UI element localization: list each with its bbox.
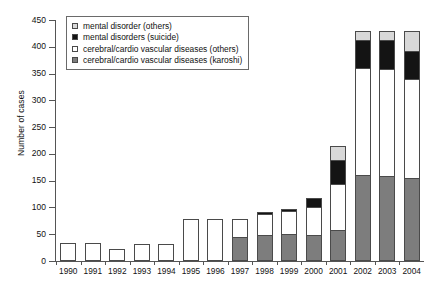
bar-segment [232, 237, 248, 261]
y-tick-mark [49, 127, 55, 128]
legend-item: mental disorders (suicide) [72, 32, 242, 44]
x-tick-mark [301, 261, 302, 265]
bar-segment [404, 178, 420, 261]
bar-1994 [158, 244, 174, 261]
bar-segment [379, 69, 395, 176]
y-tick-mark [49, 47, 55, 48]
x-tick-mark [203, 261, 204, 265]
bar-segment [85, 243, 101, 261]
legend-item-label: mental disorder (others) [83, 22, 172, 30]
x-tick-mark [81, 261, 82, 265]
x-tick-mark [277, 261, 278, 265]
bar-segment [355, 68, 371, 175]
bar-segment [207, 219, 223, 261]
y-tick-label: 400 [20, 42, 46, 51]
legend-swatch-icon [72, 57, 78, 63]
bar-2002 [355, 31, 371, 261]
bar-segment [281, 234, 297, 261]
bar-segment [183, 219, 199, 261]
bar-segment [355, 40, 371, 68]
y-tick-label: 200 [20, 149, 46, 158]
x-tick-mark [375, 261, 376, 265]
bar-2003 [379, 31, 395, 261]
bar-segment [257, 214, 273, 235]
x-tick-mark [105, 261, 106, 265]
chart-legend: mental disorder (others)mental disorders… [66, 16, 249, 70]
bar-1995 [183, 219, 199, 261]
bar-segment [330, 160, 346, 184]
bar-segment [404, 79, 420, 178]
x-tick-mark [56, 261, 57, 265]
bar-1990 [60, 243, 76, 261]
y-tick-label: 100 [20, 203, 46, 212]
y-tick-mark [49, 20, 55, 21]
bar-segment [355, 175, 371, 261]
legend-swatch-icon [72, 46, 78, 52]
legend-swatch-icon [72, 34, 78, 40]
y-tick-label: 250 [20, 123, 46, 132]
bar-segment [306, 207, 322, 235]
x-tick-mark [130, 261, 131, 265]
bar-1998 [257, 212, 273, 261]
bar-1991 [85, 243, 101, 261]
x-tick-mark [252, 261, 253, 265]
legend-item: cerebral/cardio vascular diseases (karos… [72, 55, 242, 67]
x-axis-line [55, 261, 424, 262]
y-tick-label: 150 [20, 176, 46, 185]
legend-item: mental disorder (others) [72, 20, 242, 32]
bar-segment [306, 235, 322, 261]
bar-segment [60, 243, 76, 261]
bar-segment [404, 31, 420, 51]
bar-segment [232, 219, 248, 237]
bar-chart: Number of cases 050100150200250300350400… [0, 0, 430, 295]
y-tick-mark [49, 100, 55, 101]
bar-1992 [109, 249, 125, 261]
y-tick-mark [49, 207, 55, 208]
legend-item: cerebral/cardio vascular diseases (other… [72, 43, 242, 55]
bar-segment [306, 198, 322, 208]
x-tick-label: 2004 [396, 267, 428, 275]
bar-segment [404, 51, 420, 79]
bar-segment [379, 176, 395, 261]
y-tick-label: 300 [20, 96, 46, 105]
y-tick-label: 350 [20, 69, 46, 78]
x-tick-mark [228, 261, 229, 265]
bar-segment [281, 211, 297, 234]
x-tick-mark [326, 261, 327, 265]
bar-segment [330, 184, 346, 230]
y-tick-mark [49, 74, 55, 75]
bar-segment [379, 40, 395, 69]
legend-item-label: cerebral/cardio vascular diseases (other… [83, 45, 238, 53]
bar-1993 [134, 244, 150, 261]
y-tick-mark [49, 261, 55, 262]
bar-segment [355, 31, 371, 40]
y-tick-mark [49, 181, 55, 182]
bar-1999 [281, 209, 297, 261]
bar-segment [379, 31, 395, 40]
bar-1996 [207, 219, 223, 261]
bar-segment [257, 235, 273, 261]
x-tick-mark [179, 261, 180, 265]
y-tick-label: 50 [20, 230, 46, 239]
bar-segment [330, 230, 346, 261]
bar-2001 [330, 146, 346, 261]
y-tick-mark [49, 154, 55, 155]
bar-2004 [404, 31, 420, 261]
bar-1997 [232, 219, 248, 261]
y-tick-mark [49, 234, 55, 235]
x-tick-mark [154, 261, 155, 265]
y-tick-label: 0 [20, 257, 46, 266]
legend-item-label: cerebral/cardio vascular diseases (karos… [83, 56, 242, 64]
bar-segment [330, 146, 346, 160]
legend-swatch-icon [72, 23, 78, 29]
x-tick-mark [350, 261, 351, 265]
bar-segment [158, 244, 174, 261]
bar-segment [134, 244, 150, 261]
legend-item-label: mental disorders (suicide) [83, 33, 179, 41]
bar-2000 [306, 198, 322, 261]
bar-segment [109, 249, 125, 261]
y-tick-label: 450 [20, 16, 46, 25]
x-tick-mark [399, 261, 400, 265]
